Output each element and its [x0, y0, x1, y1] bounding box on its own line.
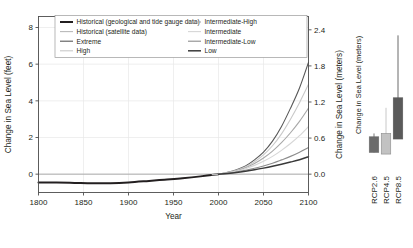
rcp-panel-y-axis-title: Change in Sea Level (meters) — [354, 36, 363, 134]
legend-label: High — [77, 47, 91, 55]
y-tick-label-left: 2 — [29, 133, 34, 142]
y-tick-label-right: 1.8 — [314, 62, 326, 71]
x-tick-label: 1850 — [75, 198, 93, 207]
rcp-box — [393, 98, 403, 139]
y-axis-left-title: Change in Sea Level (feet) — [4, 56, 13, 154]
y-tick-label-right: 2.4 — [314, 26, 326, 35]
x-tick-label: 1800 — [30, 198, 48, 207]
legend-label: Intermediate-Low — [205, 38, 256, 45]
y-tick-label-left: 0 — [29, 170, 34, 179]
y-axis-right: 0.00.61.21.82.4 — [309, 26, 326, 179]
rcp-category-label: RCP2.6 — [370, 175, 379, 204]
y-tick-label-left: 6 — [29, 60, 34, 69]
legend-label: Historical (satellite data) — [77, 28, 147, 36]
y-tick-label-left: 8 — [29, 23, 34, 32]
y-tick-label-left: 4 — [29, 97, 34, 106]
legend-label: Intermediate — [205, 28, 242, 35]
y-tick-label-right: 0.6 — [314, 134, 326, 143]
legend-label: Low — [205, 47, 217, 54]
legend: Historical (geological and tide gauge da… — [55, 16, 307, 58]
rcp-category-label: RCP8.5 — [394, 175, 403, 204]
rcp-box — [369, 137, 379, 153]
x-tick-label: 2050 — [255, 198, 273, 207]
y-tick-label-right: 1.2 — [314, 98, 326, 107]
legend-label: Historical (geological and tide gauge da… — [77, 18, 200, 26]
y-tick-label-right: 0.0 — [314, 170, 326, 179]
legend-label: Extreme — [77, 38, 102, 45]
x-axis-title: Year — [165, 212, 182, 221]
sea-level-rise-figure: 02468 0.00.61.21.82.4 180018501900195020… — [0, 0, 413, 248]
x-tick-label: 2000 — [210, 198, 228, 207]
rcp-inset-panel: RCP2.6RCP4.5RCP8.5 — [369, 35, 403, 204]
legend-label: Intermediate-High — [205, 18, 258, 26]
x-axis: 1800185019001950200020502100 — [30, 193, 318, 207]
chart-svg: 02468 0.00.61.21.82.4 180018501900195020… — [0, 0, 413, 248]
rcp-box — [381, 133, 391, 154]
x-tick-label: 1900 — [120, 198, 138, 207]
x-tick-label: 2100 — [300, 198, 318, 207]
x-tick-label: 1950 — [165, 198, 183, 207]
y-axis-right-title: Change in Sea Level (meters) — [335, 50, 344, 159]
rcp-category-label: RCP4.5 — [382, 175, 391, 204]
y-axis-left: 02468 — [29, 23, 39, 179]
